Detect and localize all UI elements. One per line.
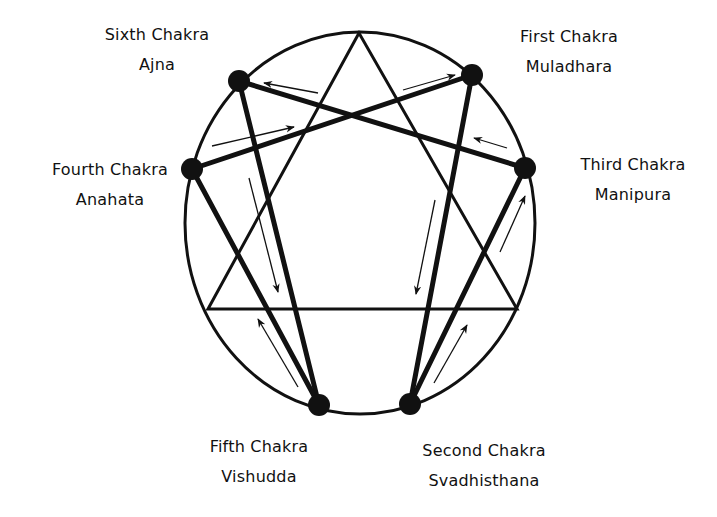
fifth-chakra-name: Vishudda	[184, 462, 334, 492]
node-fifth-chakra	[308, 394, 330, 416]
second-chakra-name: Svadhisthana	[394, 466, 574, 496]
node-first-chakra	[461, 64, 483, 86]
first-chakra-name: Muladhara	[484, 52, 654, 82]
label-sixth-chakra: Sixth Chakra Ajna	[72, 20, 242, 80]
connection-first-second	[410, 75, 472, 404]
label-second-chakra: Second Chakra Svadhisthana	[394, 436, 574, 496]
third-chakra-name: Manipura	[548, 180, 717, 210]
first-chakra-title: First Chakra	[484, 22, 654, 52]
sixth-chakra-name: Ajna	[72, 50, 242, 80]
label-fourth-chakra: Fourth Chakra Anahata	[20, 155, 200, 215]
third-chakra-title: Third Chakra	[548, 150, 717, 180]
node-second-chakra	[399, 393, 421, 415]
label-third-chakra: Third Chakra Manipura	[548, 150, 717, 210]
hexad-lines	[192, 75, 525, 405]
connection-sixth-third	[239, 81, 525, 168]
sixth-chakra-title: Sixth Chakra	[72, 20, 242, 50]
fourth-chakra-name: Anahata	[20, 185, 200, 215]
node-third-chakra	[514, 157, 536, 179]
fourth-chakra-title: Fourth Chakra	[20, 155, 200, 185]
second-chakra-title: Second Chakra	[394, 436, 574, 466]
flow-arrow-icon	[434, 325, 467, 383]
fifth-chakra-title: Fifth Chakra	[184, 432, 334, 462]
flow-arrow-icon	[474, 138, 507, 148]
flow-arrow-icon	[249, 178, 278, 292]
connection-third-second	[410, 168, 525, 404]
label-fifth-chakra: Fifth Chakra Vishudda	[184, 432, 334, 492]
label-first-chakra: First Chakra Muladhara	[484, 22, 654, 82]
flow-arrow-icon	[500, 196, 525, 252]
